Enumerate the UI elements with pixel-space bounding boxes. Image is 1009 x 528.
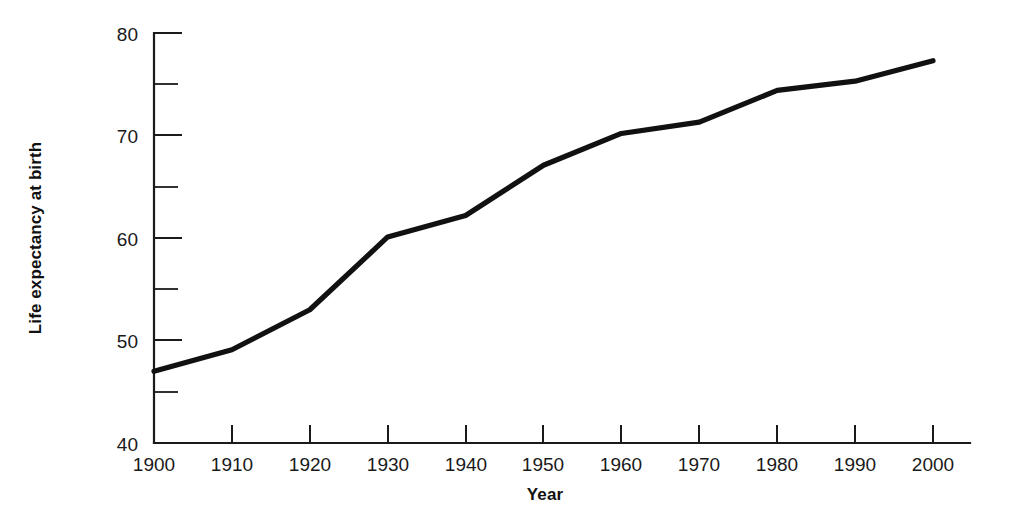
y-tick-label: 80	[117, 24, 138, 45]
x-tick-label: 1990	[834, 454, 876, 475]
x-tick-label: 1980	[756, 454, 798, 475]
x-axis-title: Year	[527, 485, 564, 504]
x-tick-label: 1950	[522, 454, 564, 475]
x-tick-label: 1900	[133, 454, 175, 475]
line-chart: 80 70 60 50 40 1900 1910 1920 1930 1940 …	[0, 0, 1009, 528]
y-tick-label: 50	[117, 331, 138, 352]
y-tick-label: 60	[117, 229, 138, 250]
x-tick-label: 1970	[678, 454, 720, 475]
x-tick-label: 2000	[912, 454, 954, 475]
x-tick-label: 1930	[367, 454, 409, 475]
x-tick-label: 1920	[289, 454, 331, 475]
chart-canvas: 80 70 60 50 40 1900 1910 1920 1930 1940 …	[0, 0, 1009, 528]
x-tick-label: 1960	[600, 454, 642, 475]
x-tick-label: 1940	[445, 454, 487, 475]
x-tick-label: 1910	[211, 454, 253, 475]
y-tick-label: 40	[117, 434, 138, 455]
y-tick-label: 70	[117, 126, 138, 147]
y-axis-title: Life expectancy at birth	[26, 142, 45, 334]
